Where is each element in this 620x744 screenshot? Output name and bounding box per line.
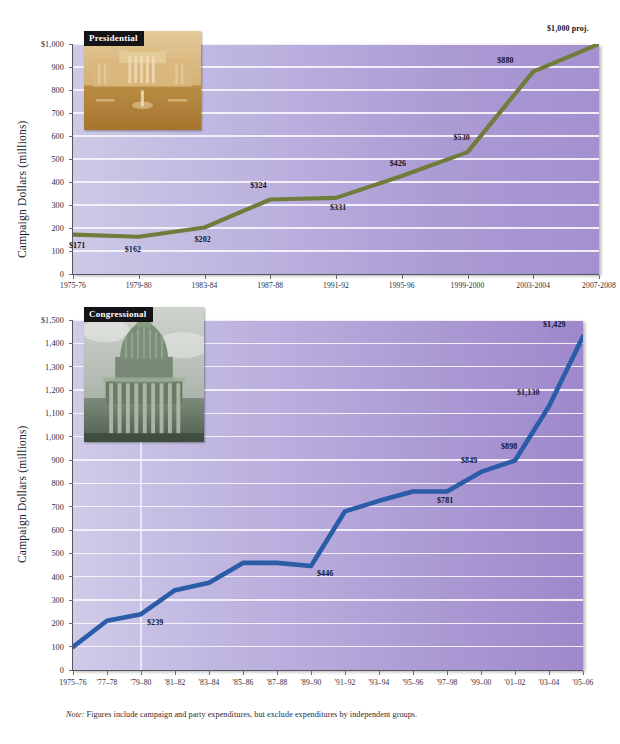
x-tick-label: '77–78 bbox=[97, 678, 118, 687]
x-tick-label: 1999-2000 bbox=[451, 281, 485, 290]
y-tick-label: 300 bbox=[0, 596, 64, 605]
x-tick-mark bbox=[515, 671, 516, 675]
y-tick-label: 900 bbox=[0, 456, 64, 465]
x-tick-mark bbox=[583, 671, 584, 675]
y-axis-line bbox=[72, 320, 73, 670]
congressional-chart: Campaign Dollars (millions) $1,5001,4001… bbox=[0, 300, 620, 744]
x-tick-mark bbox=[336, 275, 337, 279]
y-tick-label: 600 bbox=[0, 526, 64, 535]
y-tick-label: 1,000 bbox=[0, 432, 64, 441]
us-capitol-photo-card: Congressional bbox=[84, 307, 204, 442]
x-tick-mark bbox=[141, 671, 142, 675]
y-tick-label: 900 bbox=[0, 63, 64, 72]
us-capitol-photo bbox=[84, 307, 204, 442]
x-tick-label: 1975–76 bbox=[59, 678, 86, 687]
y-tick-label: 400 bbox=[0, 178, 64, 187]
data-point-label: $239 bbox=[147, 618, 163, 627]
y-tick-label: $1,500 bbox=[0, 316, 64, 325]
x-tick-mark bbox=[413, 671, 414, 675]
y-axis-line bbox=[72, 44, 73, 274]
x-tick-mark bbox=[599, 275, 600, 279]
data-point-label: $880 bbox=[497, 56, 513, 65]
x-tick-label: 1991-92 bbox=[323, 281, 349, 290]
y-tick-label: 400 bbox=[0, 572, 64, 581]
y-tick-label: 300 bbox=[0, 201, 64, 210]
note-text: Figures include campaign and party expen… bbox=[87, 710, 418, 719]
presidential-badge: Presidential bbox=[84, 31, 144, 46]
data-point-label: $446 bbox=[317, 569, 333, 578]
x-tick-label: '95–96 bbox=[403, 678, 424, 687]
y-tick-label: 500 bbox=[0, 155, 64, 164]
y-tick-label: 500 bbox=[0, 549, 64, 558]
x-tick-mark bbox=[345, 671, 346, 675]
y-tick-label: 800 bbox=[0, 479, 64, 488]
x-tick-label: '05–06 bbox=[573, 678, 594, 687]
data-point-label: $898 bbox=[501, 442, 517, 451]
x-tick-label: '01–02 bbox=[505, 678, 526, 687]
x-tick-label: 2003-2004 bbox=[516, 281, 550, 290]
note-prefix: Note: bbox=[66, 710, 84, 719]
white-house-photo-card: Presidential bbox=[84, 31, 201, 130]
x-tick-label: '03–04 bbox=[539, 678, 560, 687]
y-tick-label: 100 bbox=[0, 642, 64, 651]
x-tick-label: 1979-80 bbox=[126, 281, 152, 290]
x-tick-mark bbox=[243, 671, 244, 675]
x-tick-mark bbox=[139, 275, 140, 279]
x-tick-label: '85–86 bbox=[233, 678, 254, 687]
x-tick-mark bbox=[205, 275, 206, 279]
x-tick-label: '83–84 bbox=[199, 678, 220, 687]
data-point-label: $1,429 bbox=[543, 320, 566, 329]
x-tick-mark bbox=[107, 671, 108, 675]
x-tick-label: 1983-84 bbox=[191, 281, 217, 290]
x-tick-label: 1995-96 bbox=[389, 281, 415, 290]
x-tick-label: 1975-76 bbox=[60, 281, 86, 290]
y-tick-label: 0 bbox=[0, 270, 64, 279]
data-point-label: $162 bbox=[125, 245, 141, 254]
y-tick-label: 1,100 bbox=[0, 409, 64, 418]
y-tick-label: 0 bbox=[0, 666, 64, 675]
x-tick-label: '91–92 bbox=[335, 678, 356, 687]
data-point-label: $1,130 bbox=[517, 388, 540, 397]
x-tick-mark bbox=[549, 671, 550, 675]
data-point-label: $849 bbox=[461, 456, 477, 465]
figure-note: Note: Figures include campaign and party… bbox=[66, 710, 417, 719]
x-tick-label: '93–94 bbox=[369, 678, 390, 687]
data-point-label: $530 bbox=[454, 133, 470, 142]
x-axis-line bbox=[72, 670, 583, 671]
data-point-label: $781 bbox=[437, 496, 453, 505]
y-tick-label: 1,200 bbox=[0, 386, 64, 395]
presidential-y-axis-title: Campaign Dollars (millions) bbox=[16, 120, 28, 258]
y-tick-label: 1,300 bbox=[0, 362, 64, 371]
y-tick-label: 200 bbox=[0, 619, 64, 628]
x-tick-label: '87–88 bbox=[267, 678, 288, 687]
data-point-label: $171 bbox=[69, 241, 85, 250]
y-tick-label: 100 bbox=[0, 247, 64, 256]
x-tick-mark bbox=[277, 671, 278, 675]
y-tick-label: 700 bbox=[0, 109, 64, 118]
x-tick-mark bbox=[379, 671, 380, 675]
y-tick-label: 700 bbox=[0, 502, 64, 511]
x-tick-mark bbox=[481, 671, 482, 675]
data-point-label: $1,000 proj. bbox=[547, 24, 589, 33]
x-tick-mark bbox=[73, 275, 74, 279]
x-tick-label: '79–80 bbox=[131, 678, 152, 687]
x-tick-label: '97–98 bbox=[437, 678, 458, 687]
y-tick-label: 200 bbox=[0, 224, 64, 233]
y-tick-label: 600 bbox=[0, 132, 64, 141]
y-tick-label: 800 bbox=[0, 86, 64, 95]
data-point-label: $426 bbox=[390, 159, 406, 168]
x-tick-mark bbox=[73, 671, 74, 675]
data-point-label: $331 bbox=[330, 203, 346, 212]
x-tick-label: 1987-88 bbox=[257, 281, 283, 290]
x-tick-mark bbox=[468, 275, 469, 279]
y-tick-label: 1,400 bbox=[0, 339, 64, 348]
x-tick-label: 2007-2008 bbox=[582, 281, 616, 290]
x-tick-mark bbox=[209, 671, 210, 675]
x-tick-mark bbox=[311, 671, 312, 675]
white-house-photo bbox=[84, 31, 201, 130]
data-point-label: $324 bbox=[250, 181, 266, 190]
x-tick-label: '99–00 bbox=[471, 678, 492, 687]
x-tick-mark bbox=[175, 671, 176, 675]
x-tick-mark bbox=[402, 275, 403, 279]
y-tick-label: $1,000 bbox=[0, 40, 64, 49]
